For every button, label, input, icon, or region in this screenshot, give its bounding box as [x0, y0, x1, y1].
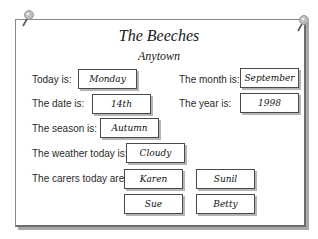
day-value-card[interactable]: Monday	[78, 69, 137, 89]
year-label: The year is:	[179, 98, 231, 110]
board-title: The Beeches	[0, 27, 318, 45]
weather-value-card[interactable]: Cloudy	[126, 143, 185, 163]
carer-card-betty[interactable]: Betty	[196, 194, 255, 214]
weather-label: The weather today is:	[32, 148, 128, 160]
push-pin-icon	[21, 9, 37, 27]
carer-card-karen[interactable]: Karen	[124, 169, 183, 189]
date-value-card[interactable]: 14th	[92, 94, 151, 114]
month-label: The month is:	[179, 74, 240, 86]
date-label: The date is:	[32, 98, 84, 110]
carer-card-sue[interactable]: Sue	[124, 194, 183, 214]
season-value-card[interactable]: Autumn	[100, 118, 159, 138]
board-subtitle: Anytown	[0, 49, 318, 64]
day-label: Today is:	[32, 74, 71, 86]
month-value-card[interactable]: September	[240, 68, 299, 88]
season-label: The season is:	[32, 123, 97, 135]
carer-card-sunil[interactable]: Sunil	[196, 169, 255, 189]
carers-label: The carers today are:	[32, 173, 127, 185]
year-value-card[interactable]: 1998	[240, 93, 299, 113]
